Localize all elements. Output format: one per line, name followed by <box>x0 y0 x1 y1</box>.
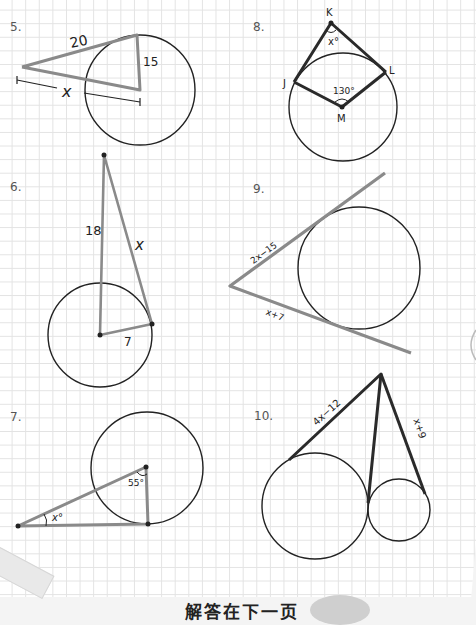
label-x-plus-7: x+7 <box>264 307 285 323</box>
label-7: 7 <box>124 335 132 349</box>
label-x-plus-9: x+9 <box>411 417 428 440</box>
figure-problem-6: 18 x 7 <box>48 153 155 388</box>
vertex-l: L <box>389 65 395 76</box>
label-4x-12: 4x−12 <box>310 397 342 428</box>
large-circle <box>262 453 368 559</box>
vertex-k: K <box>326 7 333 18</box>
small-circle <box>368 479 430 541</box>
triangle <box>18 467 148 526</box>
figure-problem-10: 4x−12 x+9 <box>262 374 430 559</box>
angle-x: x° <box>328 36 339 47</box>
tangent-segments-left <box>289 374 381 503</box>
vertex-j: J <box>282 78 286 89</box>
page-curl-decoration <box>310 595 370 625</box>
label-angle-55: 55° <box>128 478 144 488</box>
label-18: 18 <box>85 223 102 238</box>
center-m: M <box>337 113 346 124</box>
figure-problem-7: x° 55° <box>16 412 204 529</box>
figure-problem-8: K J L M x° 130° <box>282 7 397 161</box>
figure-problem-9: 2x−15 x+7 <box>230 173 476 360</box>
label-15: 15 <box>143 55 158 69</box>
label-x: x <box>134 236 144 254</box>
label-angle-x: x° <box>51 512 63 523</box>
figure-problem-5: 20 15 x <box>17 32 195 145</box>
footer-note: 解答在下一页 <box>185 598 299 623</box>
angle-130: 130° <box>333 86 355 96</box>
circle <box>298 207 420 329</box>
label-x: x <box>61 82 72 101</box>
